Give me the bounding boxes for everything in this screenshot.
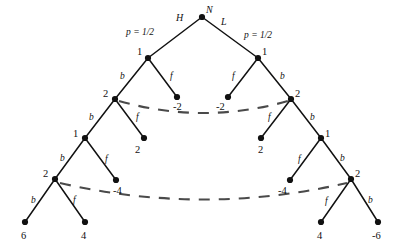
n-L1-dot[interactable] <box>145 55 151 61</box>
edge-R4-b <box>351 179 378 222</box>
leaf-2-right-label: 2 <box>258 145 263 156</box>
prob-left-label: p = 1/2 <box>126 28 154 38</box>
leaf-2-left-dot[interactable] <box>141 135 147 141</box>
leaf-neg2-right-dot[interactable] <box>225 94 231 100</box>
edge-b-R1: b <box>280 72 285 82</box>
leaf-neg4-left-label: -4 <box>113 186 122 197</box>
edge-f-L2: f <box>136 113 139 123</box>
n-L4-dot[interactable] <box>52 176 58 182</box>
leaf-4-right-label: 4 <box>317 231 322 242</box>
edge-f-R3: f <box>298 155 301 165</box>
edge-L2-f <box>115 99 144 138</box>
n-R1-dot[interactable] <box>255 55 261 61</box>
edge-R2-b <box>291 99 321 138</box>
edge-root-left <box>148 17 202 58</box>
leaf-neg4-left-dot[interactable] <box>113 177 119 183</box>
edge-b-R4: b <box>368 196 373 206</box>
n-R3-label: 1 <box>325 129 330 140</box>
edge-R3-f <box>290 138 321 180</box>
leaf-2-right-dot[interactable] <box>258 135 264 141</box>
n-L3-label: 1 <box>73 129 78 140</box>
n-L4-label: 2 <box>43 169 48 180</box>
edge-b-R3: b <box>340 154 345 164</box>
root-label: N <box>206 5 213 15</box>
n-R4-dot[interactable] <box>348 176 354 182</box>
n-L3-dot[interactable] <box>82 135 88 141</box>
leaf-neg4-right-dot[interactable] <box>287 177 293 183</box>
recombine-upper <box>119 101 288 113</box>
prob-right-label: p = 1/2 <box>244 31 272 41</box>
leaf-neg2-left-label: -2 <box>173 102 182 113</box>
edge-f-L4: f <box>73 196 76 206</box>
leaf-neg2-left-dot[interactable] <box>174 94 180 100</box>
n-R2-dot[interactable] <box>288 96 294 102</box>
tree-graphics <box>0 0 400 251</box>
n-R2-label: 2 <box>295 89 300 100</box>
leaf-neg4-right-label: -4 <box>278 186 287 197</box>
leaf-2-left-label: 2 <box>135 145 140 156</box>
edge-f-R2: f <box>268 113 271 123</box>
edge-L3-f <box>85 138 116 180</box>
leaf-neg6-label: -6 <box>372 231 381 242</box>
leaf-4-left-label: 4 <box>81 231 86 242</box>
edge-b-R2: b <box>310 113 315 123</box>
tree-edges-group <box>25 17 378 222</box>
leaf-neg2-right-label: -2 <box>216 102 225 113</box>
root-dot[interactable] <box>199 14 205 20</box>
edge-f-R4: f <box>325 197 328 207</box>
n-L2-dot[interactable] <box>112 96 118 102</box>
edge-b-L4: b <box>31 196 36 206</box>
edge-f-L3: f <box>105 155 108 165</box>
n-R4-label: 2 <box>355 169 360 180</box>
leaf-6-label: 6 <box>21 231 26 242</box>
edge-R2-f <box>261 99 291 138</box>
edge-f-L1: f <box>170 72 173 82</box>
n-R1-label: 1 <box>262 47 267 58</box>
n-L2-label: 2 <box>103 89 108 100</box>
edge-b-L1: b <box>120 72 125 82</box>
edge-R3-b <box>321 138 351 179</box>
binomial-tree-figure: NHLp = 1/2p = 1/211221122-2-222-4-4644-6… <box>0 0 400 251</box>
edge-b-L2: b <box>89 113 94 123</box>
leaf-neg6-dot[interactable] <box>375 219 381 225</box>
leaf-4-right-dot[interactable] <box>318 219 324 225</box>
recombine-lower <box>60 183 347 200</box>
branch-L-label: L <box>221 17 227 27</box>
edge-L4-b <box>25 179 55 222</box>
n-L1-label: 1 <box>137 47 142 58</box>
branch-H-label: H <box>176 13 183 23</box>
edge-R1-b <box>258 58 291 99</box>
leaf-6-dot[interactable] <box>22 219 28 225</box>
leaf-4-left-dot[interactable] <box>82 219 88 225</box>
n-R3-dot[interactable] <box>318 135 324 141</box>
tree-node-dots-group <box>22 14 381 225</box>
edge-b-L3: b <box>60 154 65 164</box>
edge-f-R1: f <box>232 72 235 82</box>
